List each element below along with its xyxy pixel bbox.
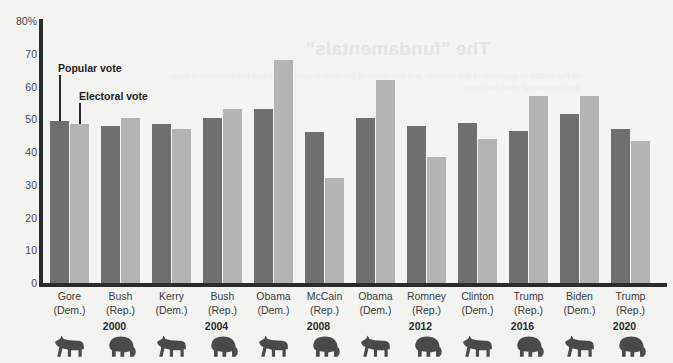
bar-group xyxy=(560,21,599,283)
candidate-name: Romney xyxy=(399,290,454,303)
y-axis-tick-40: 40 xyxy=(0,146,37,158)
candidate-party: (Rep.) xyxy=(399,303,454,317)
bar-group xyxy=(407,21,446,283)
candidate-name: Trump xyxy=(501,290,556,303)
bar-popular-vote xyxy=(560,114,579,283)
y-axis-tick-20: 20 xyxy=(0,212,37,224)
donkey-icon xyxy=(359,333,393,359)
bar-popular-vote xyxy=(611,129,630,283)
bar-group xyxy=(203,21,242,283)
candidate-party: (Dem.) xyxy=(552,303,607,317)
y-axis-tick-70: 70 xyxy=(0,48,37,60)
y-axis-tick-10: 10 xyxy=(0,244,37,256)
elephant-icon xyxy=(512,333,546,359)
candidate-party: (Dem.) xyxy=(42,303,97,317)
bar-electoral-vote xyxy=(223,109,242,283)
candidate-name: Gore xyxy=(42,290,97,303)
candidate-name: Obama xyxy=(348,290,403,303)
candidate-party: (Dem.) xyxy=(450,303,505,317)
candidate-name: Kerry xyxy=(144,290,199,303)
electoral-vote-annotation-label: Electoral vote xyxy=(79,90,148,102)
popular-vote-annotation-label: Popular vote xyxy=(58,62,122,74)
bar-electoral-vote xyxy=(427,157,446,283)
x-axis-label-group: Obama(Dem.) xyxy=(348,290,403,317)
bar-group xyxy=(356,21,395,283)
candidate-name: Clinton xyxy=(450,290,505,303)
candidate-name: Bush xyxy=(195,290,250,303)
donkey-icon xyxy=(461,333,495,359)
bar-electoral-vote xyxy=(172,129,191,283)
donkey-icon xyxy=(563,333,597,359)
bar-group xyxy=(305,21,344,283)
bar-group xyxy=(254,21,293,283)
x-axis-label-group: Obama(Dem.) xyxy=(246,290,301,317)
donkey-icon xyxy=(257,333,291,359)
bar-group xyxy=(509,21,548,283)
x-axis-label-group: McCain(Rep.) xyxy=(297,290,352,317)
bar-electoral-vote xyxy=(478,139,497,283)
bar-electoral-vote xyxy=(529,96,548,283)
bar-group xyxy=(458,21,497,283)
candidate-party: (Rep.) xyxy=(501,303,556,317)
bar-electoral-vote xyxy=(274,60,293,283)
election-year-2008: 2008 xyxy=(294,320,344,332)
candidate-name: McCain xyxy=(297,290,352,303)
elephant-icon xyxy=(614,333,648,359)
bar-group xyxy=(50,21,89,283)
x-axis-line xyxy=(39,283,667,287)
bar-electoral-vote xyxy=(121,118,140,283)
candidate-party: (Rep.) xyxy=(297,303,352,317)
electoral-vote-leader-line xyxy=(79,103,81,124)
election-year-2004: 2004 xyxy=(192,320,242,332)
x-axis-label-group: Biden(Dem.) xyxy=(552,290,607,317)
bar-popular-vote xyxy=(152,124,171,283)
bar-popular-vote xyxy=(305,132,324,283)
elephant-icon xyxy=(206,333,240,359)
election-year-2016: 2016 xyxy=(498,320,548,332)
bar-popular-vote xyxy=(203,118,222,283)
x-axis-label-group: Bush(Rep.) xyxy=(93,290,148,317)
elephant-icon xyxy=(104,333,138,359)
bar-group xyxy=(611,21,650,283)
bar-electoral-vote xyxy=(631,141,650,283)
election-year-2012: 2012 xyxy=(396,320,446,332)
y-axis-tick-labels: 80%706050403020100 xyxy=(0,0,37,283)
candidate-name: Obama xyxy=(246,290,301,303)
chart-page: The "fundamentals" of the matter in ques… xyxy=(0,0,673,363)
candidate-name: Bush xyxy=(93,290,148,303)
candidate-party: (Rep.) xyxy=(195,303,250,317)
election-year-2020: 2020 xyxy=(600,320,650,332)
x-axis-label-group: Trump(Rep.) xyxy=(603,290,658,317)
bar-popular-vote xyxy=(356,118,375,283)
candidate-party: (Rep.) xyxy=(93,303,148,317)
popular-vote-leader-line xyxy=(59,75,61,121)
election-year-2000: 2000 xyxy=(90,320,140,332)
x-axis-label-group: Bush(Rep.) xyxy=(195,290,250,317)
elephant-icon xyxy=(410,333,444,359)
y-axis-tick-30: 30 xyxy=(0,179,37,191)
candidate-name: Trump xyxy=(603,290,658,303)
x-axis-label-group: Romney(Rep.) xyxy=(399,290,454,317)
donkey-icon xyxy=(155,333,189,359)
candidate-name: Biden xyxy=(552,290,607,303)
bar-electoral-vote xyxy=(70,124,89,283)
bar-group xyxy=(101,21,140,283)
candidate-party: (Rep.) xyxy=(603,303,658,317)
bar-popular-vote xyxy=(101,126,120,283)
y-axis-tick-60: 60 xyxy=(0,81,37,93)
plot-area xyxy=(41,21,665,283)
bar-electoral-vote xyxy=(580,96,599,283)
donkey-icon xyxy=(53,333,87,359)
bar-group xyxy=(152,21,191,283)
x-axis-label-group: Trump(Rep.) xyxy=(501,290,556,317)
candidate-party: (Dem.) xyxy=(348,303,403,317)
bar-popular-vote xyxy=(50,121,69,283)
candidate-party: (Dem.) xyxy=(144,303,199,317)
bar-popular-vote xyxy=(254,109,273,283)
bar-popular-vote xyxy=(407,126,426,283)
bar-popular-vote xyxy=(509,131,528,283)
y-axis-tick-50: 50 xyxy=(0,113,37,125)
elephant-icon xyxy=(308,333,342,359)
bar-electoral-vote xyxy=(376,80,395,283)
y-axis-tick-0: 0 xyxy=(0,277,37,289)
